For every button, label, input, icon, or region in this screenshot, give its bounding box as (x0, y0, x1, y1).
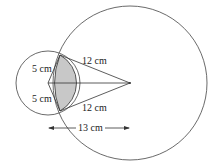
label-5cm-top: 5 cm (32, 63, 52, 74)
label-13cm: 13 cm (78, 122, 103, 133)
label-5cm-bottom: 5 cm (32, 93, 52, 104)
large-center-point (129, 82, 131, 84)
label-12cm-bottom: 12 cm (82, 102, 107, 113)
intersecting-circles-diagram: 5 cm 5 cm 12 cm 12 cm 13 cm (0, 0, 218, 168)
label-12cm-top: 12 cm (82, 55, 107, 66)
arrowhead-right-icon (124, 126, 130, 130)
arrowhead-left-icon (48, 126, 54, 130)
